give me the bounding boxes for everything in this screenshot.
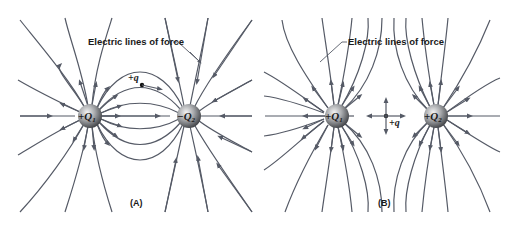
field-line bbox=[422, 127, 434, 212]
field-line bbox=[443, 124, 490, 212]
field-line bbox=[341, 125, 368, 212]
field-line bbox=[443, 20, 490, 108]
panel-caption-a: (A) bbox=[130, 198, 143, 208]
field-line bbox=[422, 18, 434, 105]
field-line bbox=[97, 124, 183, 160]
field-line bbox=[194, 124, 252, 212]
annotation-leader bbox=[320, 42, 347, 62]
field-line bbox=[282, 20, 328, 108]
field-line bbox=[20, 20, 85, 108]
field-line bbox=[264, 119, 324, 136]
field-line bbox=[264, 96, 324, 113]
field-line bbox=[341, 18, 368, 107]
panel-b: Electric lines of force +q +Q1 +Q2 (B) bbox=[264, 18, 500, 212]
electric-field-diagram: Electric lines of force +q +Q1 −Q2 (A) bbox=[0, 0, 514, 226]
test-charge-label: +q bbox=[389, 117, 400, 128]
field-line bbox=[65, 126, 88, 212]
panel-a: Electric lines of force +q +Q1 −Q2 (A) bbox=[18, 18, 252, 212]
field-line bbox=[343, 122, 382, 212]
field-line bbox=[198, 120, 252, 152]
field-line bbox=[406, 125, 430, 212]
annotation-label: Electric lines of force bbox=[348, 36, 444, 47]
field-line bbox=[20, 124, 84, 212]
field-line bbox=[92, 126, 112, 212]
field-line bbox=[97, 72, 183, 108]
annotation-label: Electric lines of force bbox=[88, 36, 184, 47]
field-line bbox=[343, 18, 382, 110]
test-charge-label: +q bbox=[128, 72, 139, 83]
field-line bbox=[406, 18, 430, 107]
panel-caption-b: (B) bbox=[378, 198, 391, 208]
